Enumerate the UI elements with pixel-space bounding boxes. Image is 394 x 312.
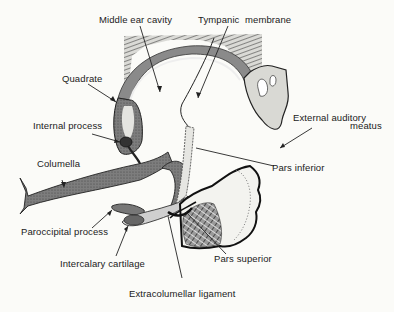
- label-middle-ear-cavity: Middle ear cavity: [99, 14, 172, 25]
- label-extracolumellar-ligament: Extracolumellar ligament: [129, 288, 235, 299]
- internal-process: [120, 137, 132, 147]
- label-tympanic: Tympanic: [198, 14, 239, 25]
- label-intercalary-cartilage: Intercalary cartilage: [60, 258, 145, 269]
- label-pars-superior: Pars superior: [214, 253, 272, 264]
- paroccipital-process: [112, 204, 145, 215]
- label-pars-inferior: Pars inferior: [272, 162, 325, 173]
- ear-anatomy-diagram: Middle ear cavity Tympanic membrane Quad…: [0, 0, 394, 312]
- label-meatus: meatus: [350, 120, 382, 131]
- label-membrane: membrane: [245, 14, 291, 25]
- label-paroccipital-process: Paroccipital process: [21, 226, 108, 237]
- label-quadrate: Quadrate: [62, 73, 102, 84]
- external-ear-lobe: [244, 65, 288, 129]
- pars-superior-tissue: [180, 166, 260, 248]
- tympanic-membrane: [176, 38, 214, 204]
- label-columella: Columella: [37, 158, 80, 169]
- label-internal-process: Internal process: [33, 120, 102, 131]
